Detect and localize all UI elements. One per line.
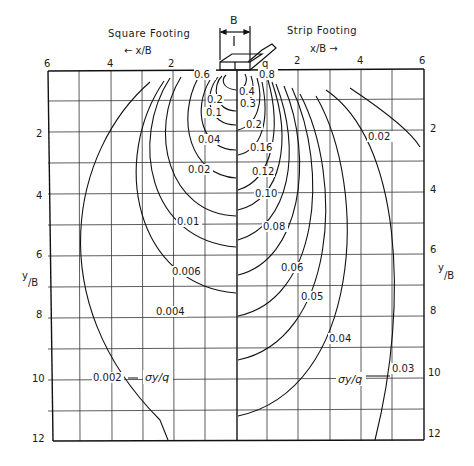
right-y-ticks: 2 4 6 8 10 12: [428, 123, 441, 439]
svg-text:0.3: 0.3: [240, 98, 256, 109]
svg-text:0.4: 0.4: [239, 86, 255, 97]
svg-text:/B: /B: [28, 277, 38, 288]
svg-text:0.02: 0.02: [368, 131, 390, 142]
svg-text:4: 4: [36, 190, 42, 201]
grid: [48, 70, 424, 441]
svg-text:0.004: 0.004: [156, 306, 185, 317]
svg-text:2: 2: [36, 128, 42, 139]
svg-text:4: 4: [430, 184, 436, 195]
svg-text:0.05: 0.05: [301, 291, 323, 302]
svg-text:0.03: 0.03: [392, 363, 414, 374]
svg-text:6: 6: [44, 58, 50, 69]
svg-text:0.06: 0.06: [281, 262, 303, 273]
svg-text:/B: /B: [444, 270, 454, 281]
svg-text:4: 4: [107, 58, 113, 69]
svg-text:0.8: 0.8: [259, 69, 275, 80]
svg-text:0.006: 0.006: [172, 266, 201, 277]
svg-text:6: 6: [36, 249, 42, 260]
svg-text:10: 10: [428, 367, 441, 378]
svg-text:0.01: 0.01: [177, 216, 199, 227]
svg-text:0.1: 0.1: [206, 107, 222, 118]
strip-footing-title: Strip Footing: [287, 25, 357, 36]
stress-isobar-diagram: 6 4 2 2 4 6 2 4 6 8 10 12 2 4 6 8 10 12 …: [0, 0, 474, 466]
svg-text:2: 2: [430, 123, 436, 134]
svg-text:12: 12: [428, 428, 441, 439]
square-footing-isobars: [81, 75, 236, 440]
svg-text:0.12: 0.12: [252, 166, 274, 177]
right-x-axis-label: x/B →: [310, 43, 338, 54]
svg-text:0.002: 0.002: [93, 372, 122, 383]
svg-text:6: 6: [419, 55, 425, 66]
svg-text:2: 2: [294, 55, 300, 66]
footing-width-label: B: [230, 14, 238, 27]
svg-text:0.02: 0.02: [188, 164, 210, 175]
svg-text:4: 4: [357, 55, 363, 66]
svg-text:0.08: 0.08: [263, 221, 285, 232]
svg-text:0.2: 0.2: [207, 94, 223, 105]
strip-footing-isobars: [238, 74, 420, 440]
right-stress-label: σy/q: [338, 373, 362, 386]
svg-text:0.16: 0.16: [250, 142, 272, 153]
svg-text:q: q: [262, 58, 268, 69]
svg-text:6: 6: [430, 244, 436, 255]
svg-text:0.10: 0.10: [255, 188, 277, 199]
svg-text:10: 10: [32, 373, 45, 384]
svg-text:8: 8: [36, 309, 42, 320]
q-label: q: [262, 58, 268, 69]
svg-text:12: 12: [32, 433, 45, 444]
svg-text:0.04: 0.04: [329, 333, 351, 344]
svg-text:0.2: 0.2: [246, 119, 262, 130]
square-footing-title: Square Footing: [108, 28, 190, 39]
svg-text:8: 8: [430, 305, 436, 316]
left-stress-label: σy/q: [145, 371, 169, 384]
svg-text:0.6: 0.6: [194, 69, 210, 80]
svg-text:0.04: 0.04: [198, 134, 220, 145]
svg-text:2: 2: [168, 58, 174, 69]
left-x-axis-label: ← x/B: [124, 45, 152, 56]
